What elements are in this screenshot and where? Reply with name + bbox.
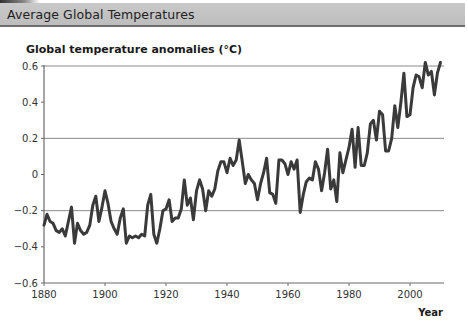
- y-tick-label: 0.2: [22, 133, 38, 144]
- y-tick-label: 0: [32, 169, 38, 180]
- x-tick-label: 2000: [397, 289, 422, 300]
- y-tick-label: −0.6: [14, 278, 38, 289]
- temperature-anomaly-line: [44, 62, 441, 243]
- x-tick-label: 1940: [214, 289, 239, 300]
- x-axis-label: Year: [417, 307, 443, 318]
- y-tick-label: −0.4: [14, 241, 38, 252]
- x-tick-label: 1960: [275, 289, 300, 300]
- y-tick-label: −0.2: [14, 205, 38, 216]
- x-tick-label: 1900: [92, 289, 117, 300]
- x-tick-label: 1980: [336, 289, 361, 300]
- x-tick-label: 1880: [31, 289, 56, 300]
- line-chart: 0.60.40.20−0.2−0.4−0.6188019001920194019…: [0, 0, 468, 328]
- x-tick-label: 1920: [153, 289, 178, 300]
- y-tick-label: 0.4: [22, 97, 38, 108]
- y-tick-label: 0.6: [22, 61, 38, 72]
